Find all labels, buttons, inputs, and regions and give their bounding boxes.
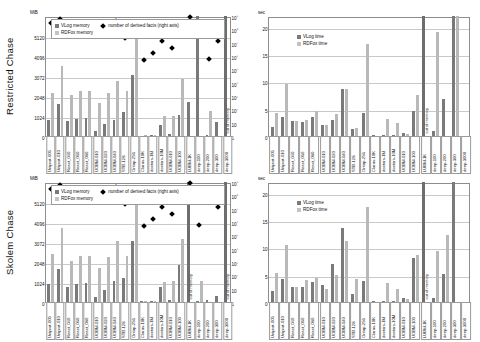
bar-group: out of memory xyxy=(421,184,431,302)
bar-rdfox xyxy=(325,125,328,136)
legend-item: number of derived facts (right axis) xyxy=(100,188,179,195)
bar-rdfox xyxy=(126,91,129,136)
bar-rdfox xyxy=(135,33,138,136)
bar-vlog xyxy=(75,284,78,302)
rdfox-swatch-icon xyxy=(55,197,59,201)
bar-rdfox xyxy=(335,275,338,302)
bar-vlog xyxy=(321,125,324,136)
x-axis-labels: Uniprot-005Uniprot-010React_040React_060… xyxy=(269,302,469,342)
x-axis-tick-label: deep-3000 xyxy=(223,302,232,340)
x-axis-tick-label: UOBM-020 xyxy=(330,302,340,340)
bar-rdfox xyxy=(386,283,389,302)
bar-vlog xyxy=(75,119,78,136)
x-axis-tick-label: Claros-10K xyxy=(370,302,380,340)
y-axis-tick-label: 15 xyxy=(262,220,269,225)
legend-label: RDFox memory xyxy=(61,195,93,202)
chart-legend: VLog memoryRDFox memorynumber of derived… xyxy=(51,185,225,205)
bar-rdfox xyxy=(436,251,439,302)
out-of-memory-label: out of memory xyxy=(225,274,230,300)
y-axis-tick-label: 1024 xyxy=(34,282,46,287)
bar-vlog xyxy=(362,113,365,136)
bar-group xyxy=(340,184,350,302)
y-axis-tick-label: 10 xyxy=(262,247,269,252)
x-axis-tick-label: doctors-10M xyxy=(158,302,167,340)
x-axis-tick-label: Ontop-256 xyxy=(360,302,370,340)
y-axis-tick-label: 1024 xyxy=(34,116,46,121)
x-axis-tick-label: deep-100 xyxy=(195,302,204,340)
bar-vlog xyxy=(103,124,106,136)
bar-vlog xyxy=(178,115,181,136)
x-axis-tick-label: UOBM-040 xyxy=(340,302,350,340)
bar-group xyxy=(269,184,279,302)
bar-rdfox xyxy=(172,281,175,302)
x-axis-tick-label: UOBM-020 xyxy=(102,302,111,340)
legend-label: RDFox time xyxy=(303,206,327,213)
bar-vlog xyxy=(291,287,294,302)
bar-rdfox xyxy=(172,116,175,137)
x-axis-tick-label: doctors-1M xyxy=(148,302,157,340)
bar-vlog xyxy=(351,294,354,302)
bar-group xyxy=(400,184,410,302)
x-axis-tick-label: Uniprot-005 xyxy=(269,302,279,340)
bar-rdfox xyxy=(181,239,184,302)
x-axis-tick-label: Uniprot-005 xyxy=(46,302,55,340)
bar-rdfox xyxy=(295,121,298,136)
bar-vlog xyxy=(66,121,69,136)
bar-vlog xyxy=(412,258,415,302)
bar-vlog xyxy=(301,122,304,136)
vlog-swatch-icon xyxy=(55,190,59,194)
bar-vlog xyxy=(291,121,294,136)
bar-rdfox xyxy=(295,287,298,302)
legend-item: VLog memory xyxy=(55,188,93,195)
panel-skolem-memory: MiB 51204096307220481024010⁹10⁸10⁷10⁶10⁵… xyxy=(0,166,240,336)
y-axis-tick-label: 4096 xyxy=(34,56,46,61)
y-axis-tick-label: 4096 xyxy=(34,222,46,227)
bar-vlog xyxy=(159,125,162,136)
x-axis-tick-label: React_080 xyxy=(83,302,92,340)
bar-rdfox xyxy=(315,278,318,302)
vlog-swatch-icon xyxy=(297,35,301,39)
bar-group xyxy=(279,18,289,136)
x-axis-tick-label: UOBM-010 xyxy=(320,302,330,340)
y-axis-tick-label: 5120 xyxy=(34,202,46,207)
bar-rdfox xyxy=(79,91,82,136)
bar-vlog xyxy=(66,287,69,302)
out-of-memory-label: out of memory xyxy=(188,274,193,300)
bar-vlog xyxy=(131,241,134,302)
diamond-marker-icon xyxy=(100,23,106,29)
bar-rdfox xyxy=(135,200,138,302)
chart-legend: VLog timeRDFox time xyxy=(294,197,330,215)
bar-rdfox xyxy=(345,241,348,302)
bar-vlog xyxy=(187,102,190,136)
bar-vlog xyxy=(452,16,455,136)
bar-rdfox xyxy=(98,268,101,302)
legend-item: RDFox time xyxy=(297,206,327,213)
legend-item: VLog time xyxy=(297,33,327,40)
bar-rdfox xyxy=(116,241,119,302)
bar-vlog xyxy=(281,117,284,136)
x-axis-tick-label: deep-100 xyxy=(431,302,441,340)
bar-vlog xyxy=(271,127,274,136)
x-axis-tick-label: deep-200 xyxy=(441,302,451,340)
bar-rdfox xyxy=(61,66,64,136)
bar-vlog xyxy=(131,75,134,136)
y-axis-tick-label: 15 xyxy=(262,54,269,59)
x-axis-tick-label: Uniprot-010 xyxy=(279,302,289,340)
bar-group xyxy=(350,18,360,136)
y-axis-tick-label: 10 xyxy=(262,81,269,86)
bar-vlog xyxy=(215,122,218,136)
bar-vlog xyxy=(452,182,455,302)
y-axis-tick-label: 20 xyxy=(262,192,269,197)
x-axis-tick-label: Uniprot-010 xyxy=(55,302,64,340)
bar-rdfox xyxy=(88,256,91,302)
x-axis-tick-label: deep-200 xyxy=(204,302,213,340)
x-axis-tick-label: Claros-10K xyxy=(139,302,148,340)
x-axis-tick-label: LUBM-1K xyxy=(186,302,195,340)
bar-rdfox xyxy=(446,235,449,302)
bar-rdfox xyxy=(116,81,119,136)
bar-group xyxy=(451,184,461,302)
bar-group xyxy=(390,18,400,136)
bar-rdfox xyxy=(107,93,110,136)
panel-restricted-time: sec 20151050out of memoryUniprot-005Unip… xyxy=(240,0,480,170)
